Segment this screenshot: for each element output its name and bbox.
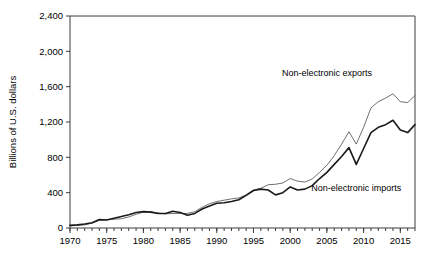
line-chart: Billions of U.S. dollars 04008001,2001,6… <box>0 0 424 262</box>
x-tick-label: 1975 <box>96 235 117 246</box>
y-tick-label: 2,000 <box>39 46 63 57</box>
y-tick-label: 0 <box>58 222 63 233</box>
x-tick-label: 2010 <box>353 235 374 246</box>
x-tick-label: 2015 <box>390 235 411 246</box>
y-tick-label: 2,400 <box>39 10 63 21</box>
y-tick-label: 1,600 <box>39 81 63 92</box>
x-tick-label: 1980 <box>133 235 154 246</box>
x-tick-label: 1990 <box>206 235 227 246</box>
x-tick-label: 1970 <box>59 235 80 246</box>
y-tick-label: 1,200 <box>39 116 63 127</box>
x-tick-label: 1995 <box>243 235 264 246</box>
chart-figure: Billions of U.S. dollars 04008001,2001,6… <box>0 0 424 262</box>
annotation-label-2: Non-electronic imports <box>311 183 402 193</box>
y-tick-label: 800 <box>47 152 63 163</box>
x-tick-label: 2005 <box>316 235 337 246</box>
x-tick-label: 2000 <box>280 235 301 246</box>
y-axis-title: Billions of U.S. dollars <box>7 76 18 169</box>
y-tick-label: 400 <box>47 187 63 198</box>
annotation-label-1: Non-electronic exports <box>282 68 373 78</box>
x-tick-label: 1985 <box>170 235 191 246</box>
chart-background <box>0 0 424 262</box>
